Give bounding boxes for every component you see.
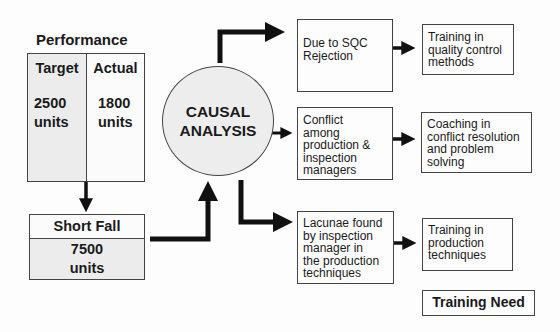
shortfall-unit: units bbox=[30, 259, 144, 278]
cause-text-line: Rejection bbox=[303, 50, 387, 63]
need-box-production-techniques: Training in production techniques bbox=[422, 218, 513, 271]
need-text-line: and problem bbox=[427, 143, 526, 156]
arrow-analysis-to-cause-1 bbox=[220, 32, 276, 63]
target-unit: units bbox=[34, 113, 69, 132]
cause-text-line: Lacunae found bbox=[303, 217, 388, 230]
actual-number: 1800 bbox=[98, 94, 133, 113]
need-text-line: Training in bbox=[428, 31, 508, 44]
need-box-quality-control: Training in quality control methods bbox=[422, 24, 514, 75]
actual-value: 1800 units bbox=[98, 94, 133, 132]
cause-text-line: managers bbox=[303, 164, 387, 177]
training-need-label: Training Need bbox=[422, 290, 535, 316]
need-text-line: methods bbox=[428, 56, 508, 69]
target-number: 2500 bbox=[34, 94, 69, 113]
analysis-line-2: ANALYSIS bbox=[180, 121, 257, 140]
shortfall-value: 7500 units bbox=[30, 239, 144, 279]
cause-box-lacunae: Lacunae found by inspection manager in t… bbox=[297, 211, 394, 284]
cause-text-line: techniques bbox=[303, 267, 388, 280]
need-text-line: Coaching in bbox=[427, 118, 526, 131]
cause-box-conflict: Conflict among production & inspection m… bbox=[297, 107, 393, 180]
shortfall-box: Short Fall 7500 units bbox=[29, 214, 145, 280]
shortfall-number: 7500 bbox=[30, 240, 144, 259]
cause-text-line: manager in bbox=[303, 242, 388, 255]
target-column: Target 2500 units bbox=[28, 54, 87, 181]
target-label: Target bbox=[28, 60, 86, 76]
actual-column: Actual 1800 units bbox=[87, 54, 144, 181]
cause-text-line: Conflict bbox=[303, 114, 387, 127]
cause-text-line: Due to SQC bbox=[303, 37, 387, 50]
target-value: 2500 units bbox=[34, 94, 69, 132]
need-text-line: Training in bbox=[428, 224, 507, 237]
cause-box-sqc-rejection: Due to SQC Rejection bbox=[297, 19, 393, 92]
performance-title: Performance bbox=[36, 31, 128, 48]
actual-unit: units bbox=[98, 113, 133, 132]
need-text-line: techniques bbox=[428, 249, 507, 262]
arrow-shortfall-to-analysis bbox=[150, 190, 208, 239]
cause-text-line: production & bbox=[303, 139, 387, 152]
arrow-analysis-to-cause-3 bbox=[241, 180, 284, 222]
actual-label: Actual bbox=[87, 60, 144, 76]
performance-table: Target 2500 units Actual 1800 units bbox=[27, 53, 145, 182]
need-text-line: solving bbox=[427, 156, 526, 169]
need-box-conflict-coaching: Coaching in conflict resolution and prob… bbox=[421, 112, 532, 173]
analysis-line-1: CAUSAL bbox=[186, 102, 251, 121]
causal-analysis-circle: CAUSAL ANALYSIS bbox=[162, 66, 274, 176]
shortfall-label: Short Fall bbox=[30, 215, 144, 239]
